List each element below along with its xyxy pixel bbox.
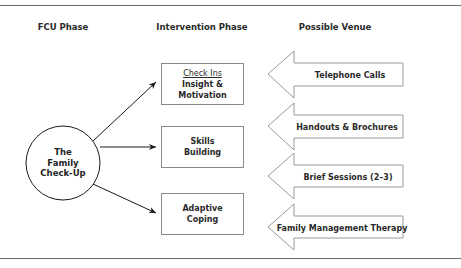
intervention-box-check-ins: Check Ins Insight & Motivation [161,63,244,105]
intervention-box-skills-building: Skills Building [161,126,244,168]
venue-label-brief-sessions: Brief Sessions (2–3) [303,173,392,182]
fcu-label-line1: The [26,147,100,158]
venue-label-family-management: Family Management Therapy [277,224,408,233]
intervention-subtitle: Building [184,147,221,158]
intervention-title: Skills [190,136,214,147]
intervention-subtitle: Insight & Motivation [162,79,243,101]
intervention-title: Adaptive [182,203,222,214]
connector-arrow-check-ins [93,82,156,141]
connector-arrow-adaptive [93,184,156,213]
intervention-title: Check Ins [183,68,222,79]
fcu-label-line2: Family [26,158,100,169]
fcu-label: The Family Check-Up [26,147,100,179]
intervention-box-adaptive-coping: Adaptive Coping [161,193,244,235]
fcu-label-line3: Check-Up [26,168,100,179]
intervention-subtitle: Coping [187,214,218,225]
venue-label-handouts: Handouts & Brochures [296,123,398,132]
venue-label-telephone: Telephone Calls [315,71,385,80]
